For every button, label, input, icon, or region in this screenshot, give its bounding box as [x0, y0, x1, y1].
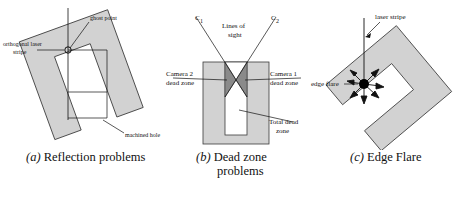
caption-b-text-line2: problems: [217, 164, 316, 178]
lines-of-sight-label-line2: sight: [228, 31, 242, 39]
ghost-point-label: ghost point: [90, 15, 117, 21]
laser-stripe-label: laser stripe: [375, 13, 406, 21]
camera2-dead-zone-label-line1: Camera 2: [166, 70, 194, 78]
total-dead-zone-label-line1: Total dead: [269, 118, 299, 126]
figure-container: ghost point orthogonal laser stripe mach…: [0, 0, 470, 207]
machined-hole-label: machined hole: [125, 132, 160, 138]
caption-b-marker: (b): [196, 150, 211, 164]
machined-hole-leader: [103, 120, 124, 133]
camera1-dead-zone-label-line2: dead zone: [270, 79, 298, 87]
caption-a-text: Reflection problems: [44, 150, 146, 164]
camera-left-subscript: 1: [200, 18, 203, 24]
caption-panel-a: (a) Reflection problems: [26, 150, 176, 164]
caption-panel-c: (c) Edge Flare: [350, 150, 470, 164]
panel-reflection-problems: ghost point orthogonal laser stripe mach…: [0, 0, 165, 150]
caption-c-marker: (c): [350, 150, 364, 164]
panel-edge-flare: laser stripe edge flare: [310, 0, 470, 150]
camera-right-subscript: 2: [276, 18, 279, 24]
laser-stripe-leader: [367, 22, 380, 35]
camera2-dead-zone-label-line2: dead zone: [166, 79, 194, 87]
caption-c-text: Edge Flare: [367, 150, 422, 164]
caption-panel-b: (b) Dead zone problems: [196, 150, 316, 178]
total-dead-zone-label-line2: zone: [276, 127, 289, 135]
panel-c-drawing: laser stripe edge flare: [310, 0, 470, 150]
orthogonal-laser-stripe-label-line2: stripe: [13, 49, 27, 55]
edge-flare-dot: [359, 79, 369, 89]
edge-flare-label: edge flare: [311, 80, 339, 88]
camera1-dead-zone-label-line1: Camera 1: [270, 70, 298, 78]
panel-b-drawing: C 1 C 2 Lines of sight Camera 2 dead zon…: [165, 0, 310, 150]
machined-block-shape: [19, 10, 143, 140]
orthogonal-laser-stripe-label-line1: orthogonal laser: [3, 41, 42, 47]
panel-dead-zone-problems: C 1 C 2 Lines of sight Camera 2 dead zon…: [165, 0, 310, 150]
panel-a-drawing: ghost point orthogonal laser stripe mach…: [0, 0, 165, 150]
edge-flare-block-shape: [326, 26, 452, 150]
caption-b-text: Dead zone: [214, 150, 267, 164]
lines-of-sight-label-line1: Lines of: [222, 22, 246, 30]
caption-a-marker: (a): [26, 150, 41, 164]
